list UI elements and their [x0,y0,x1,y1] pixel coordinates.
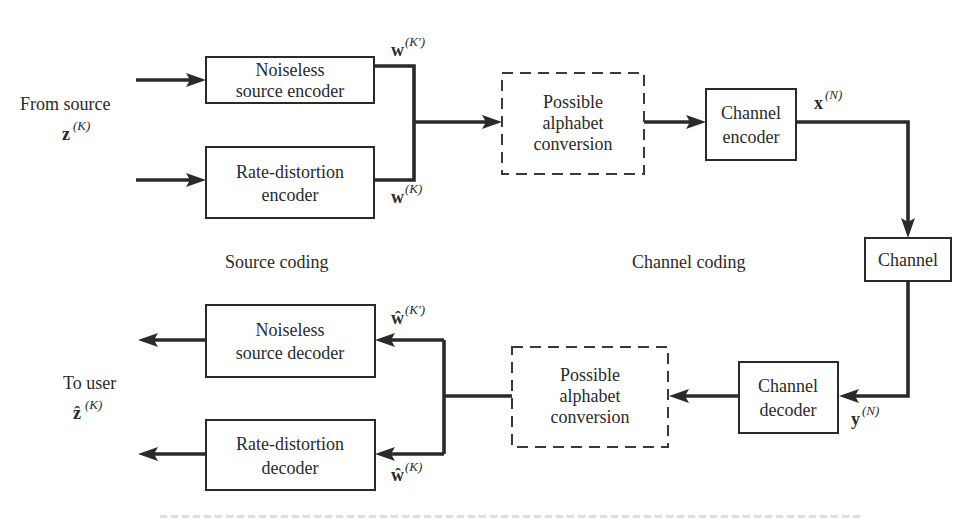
merge-encoders [374,66,414,180]
svg-text:(K′): (K′) [405,34,425,49]
svg-text:(K): (K) [405,459,422,474]
svg-text:source decoder: source decoder [236,343,344,363]
signal-w-kprime: w (K′) [391,34,425,60]
block-channel-decoder: Channel decoder [739,362,838,433]
svg-text:ŵ: ŵ [391,308,404,328]
caption-clipped-strip [160,515,860,518]
block-channel-encoder: Channel encoder [706,89,796,160]
block-rate-distortion-encoder: Rate-distortion encoder [206,147,374,218]
svg-text:decoder: decoder [262,458,319,478]
svg-text:(K): (K) [85,397,102,412]
svg-text:ẑ: ẑ [73,403,81,423]
section-label-channel-coding: Channel coding [632,252,745,272]
svg-text:From source: From source [20,94,110,114]
svg-text:Noiseless: Noiseless [256,60,325,80]
svg-text:alphabet: alphabet [560,386,621,406]
svg-text:(N): (N) [862,403,879,418]
svg-text:w: w [391,40,404,60]
svg-text:alphabet: alphabet [543,113,604,133]
svg-text:(K′): (K′) [405,302,425,317]
svg-text:Possible: Possible [543,92,603,112]
section-label-source-coding: Source coding [225,252,328,272]
channel-to-decoder [855,281,908,396]
svg-text:(N): (N) [825,87,842,102]
svg-text:To user: To user [63,373,116,393]
block-alphabet-conversion-bottom: Possible alphabet conversion [512,347,668,447]
svg-text:Possible: Possible [560,365,620,385]
svg-text:Rate-distortion: Rate-distortion [236,434,344,454]
signal-what-kprime: ŵ (K′) [391,302,425,328]
signal-w-k: w (K) [391,181,422,207]
block-rate-distortion-decoder: Rate-distortion decoder [206,420,375,490]
block-noiseless-source-decoder: Noiseless source decoder [206,305,375,377]
svg-text:conversion: conversion [551,407,630,427]
svg-text:w: w [391,187,404,207]
svg-text:Channel: Channel [721,103,781,123]
svg-text:encoder: encoder [723,127,780,147]
svg-text:ŵ: ŵ [391,465,404,485]
svg-text:x: x [814,93,823,113]
to-user-label: To user ẑ (K) [63,373,116,423]
svg-text:encoder: encoder [262,185,319,205]
svg-text:(K): (K) [405,181,422,196]
svg-text:decoder: decoder [760,400,817,420]
signal-y-n: y (N) [851,403,879,429]
encoder-to-channel [796,122,908,222]
svg-text:y: y [851,409,860,429]
svg-text:source encoder: source encoder [236,81,344,101]
svg-text:conversion: conversion [534,134,613,154]
svg-text:Channel: Channel [878,250,938,270]
coding-system-block-diagram: Noiseless source encoder Rate-distortion… [0,0,978,519]
svg-text:Noiseless: Noiseless [256,320,325,340]
signal-x-n: x (N) [814,87,842,113]
svg-text:(K): (K) [73,118,90,133]
from-source-label: From source z (K) [20,94,110,144]
svg-text:Channel: Channel [758,376,818,396]
svg-text:z: z [62,124,70,144]
signal-what-k: ŵ (K) [391,459,422,485]
block-alphabet-conversion-top: Possible alphabet conversion [502,73,644,174]
block-noiseless-source-encoder: Noiseless source encoder [206,57,374,103]
block-channel: Channel [865,238,951,281]
figure-caption-clipped [160,507,860,519]
svg-text:Rate-distortion: Rate-distortion [236,162,344,182]
